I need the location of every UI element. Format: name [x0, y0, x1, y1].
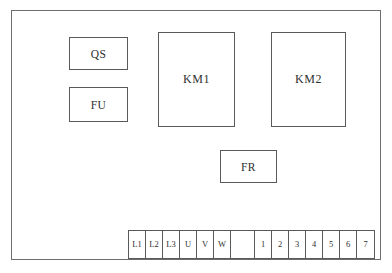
component-box-fr: FR: [220, 150, 277, 183]
terminal-cell-label: 6: [346, 240, 350, 249]
terminal-cell-2: 2: [272, 231, 289, 258]
terminal-cell-label: 3: [295, 240, 299, 249]
terminal-cell-5: 5: [323, 231, 340, 258]
terminal-cell-u: U: [180, 231, 197, 258]
terminal-cell-label: U: [185, 240, 191, 249]
terminal-cell-label: 7: [363, 240, 367, 249]
component-box-fu: FU: [69, 87, 128, 122]
terminal-cell-label: 2: [278, 240, 282, 249]
terminal-cell-label: L2: [149, 240, 158, 249]
component-box-km2: KM2: [271, 32, 346, 127]
component-label-qs: QS: [91, 48, 107, 60]
terminal-cell-l2: L2: [146, 231, 163, 258]
component-label-fr: FR: [241, 161, 256, 173]
terminal-cell-label: 5: [329, 240, 333, 249]
terminal-cell-6: 6: [340, 231, 357, 258]
terminal-cell-w: W: [214, 231, 231, 258]
terminal-cell-7: 7: [357, 231, 374, 258]
control-panel-frame: QS FU KM1 KM2 FR L1L2L3UVW1234567: [11, 10, 381, 260]
terminal-cell-v: V: [197, 231, 214, 258]
component-label-fu: FU: [91, 99, 107, 111]
terminal-cell-label: L1: [132, 240, 141, 249]
component-label-km1: KM1: [183, 72, 210, 87]
terminal-strip: L1L2L3UVW1234567: [128, 230, 375, 259]
terminal-cell-label: 4: [312, 240, 316, 249]
terminal-cell-3: 3: [289, 231, 306, 258]
component-box-qs: QS: [69, 37, 128, 70]
terminal-cell-blank: [231, 231, 255, 258]
terminal-cell-1: 1: [255, 231, 272, 258]
terminal-cell-l3: L3: [163, 231, 180, 258]
terminal-cell-4: 4: [306, 231, 323, 258]
component-label-km2: KM2: [295, 72, 322, 87]
terminal-cell-label: V: [202, 240, 208, 249]
terminal-cell-label: 1: [261, 240, 265, 249]
terminal-cell-label: L3: [166, 240, 175, 249]
terminal-cell-label: W: [218, 240, 226, 249]
component-box-km1: KM1: [158, 32, 235, 127]
terminal-cell-l1: L1: [129, 231, 146, 258]
